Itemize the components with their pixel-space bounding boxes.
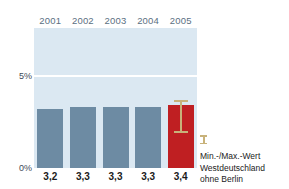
x-axis-tick-label: 2004	[132, 14, 164, 27]
bar-2003	[103, 107, 129, 168]
y-axis-tick-label: 0%	[2, 163, 32, 173]
y-axis-tick: 5%	[0, 71, 32, 81]
bar-value-label: 3,4	[165, 170, 197, 184]
error-bar-icon	[200, 135, 207, 144]
legend-label-line-1: Min.-/Max.-Wert	[200, 151, 288, 163]
chart-container: 20012002200320042005 0%5% 3,23,33,33,33,…	[0, 0, 289, 189]
error-bar-icon-cap-top	[200, 135, 207, 137]
x-axis-tick-label: 2005	[165, 14, 197, 27]
bar-2002	[70, 107, 96, 168]
y-axis-tick: 0%	[0, 163, 32, 173]
error-bar-stem	[180, 100, 182, 133]
bar-value-labels: 3,23,33,33,33,4	[34, 170, 197, 184]
legend-label-line-2: Westdeutschland	[200, 163, 288, 175]
error-bar-min-max	[174, 100, 188, 133]
bar-2004	[135, 107, 161, 168]
bar-2001	[37, 109, 63, 168]
x-axis-tick-labels: 20012002200320042005	[34, 14, 197, 27]
error-bar-icon-cap-bottom	[200, 143, 207, 145]
x-axis-tick-label: 2002	[67, 14, 99, 27]
gridline-5-percent	[34, 75, 197, 77]
legend-label: Min.-/Max.-Wert Westdeutschland ohne Ber…	[200, 151, 288, 186]
error-bar-cap-bottom	[174, 131, 188, 133]
error-bar-cap-top	[174, 100, 188, 102]
legend-label-line-3: ohne Berlin	[200, 174, 288, 186]
x-axis-tick-label: 2003	[100, 14, 132, 27]
y-axis-tick-label: 5%	[2, 71, 32, 81]
x-axis-tick-label: 2001	[34, 14, 66, 27]
bar-value-label: 3,3	[67, 170, 99, 184]
legend: Min.-/Max.-Wert Westdeutschland ohne Ber…	[200, 133, 288, 186]
bar-value-label: 3,2	[34, 170, 66, 184]
bar-value-label: 3,3	[132, 170, 164, 184]
bar-value-label: 3,3	[100, 170, 132, 184]
